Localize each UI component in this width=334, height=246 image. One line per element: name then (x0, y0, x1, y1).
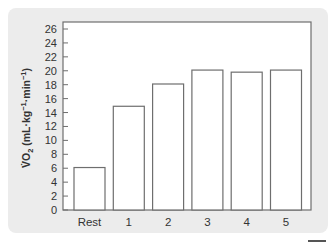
bar-5 (271, 70, 302, 210)
ylabel-sup1: −1 (19, 102, 28, 111)
ylabel-rest3: ) (20, 68, 32, 72)
x-tick-label: 1 (126, 216, 132, 228)
y-tick-label: 4 (51, 176, 57, 188)
y-tick-label: 8 (51, 148, 57, 160)
y-tick-label: 6 (51, 162, 57, 174)
ylabel-main: V̇O (20, 153, 32, 168)
ylabel-rest1: (mL·kg (20, 111, 32, 149)
y-tick-label: 0 (51, 204, 57, 216)
y-axis-label: V̇O2 (mL·kg−1·min−1) (19, 68, 35, 168)
y-tick-label: 16 (45, 93, 57, 105)
bar-chart: 02468101214161820222426 Rest12345 V̇O2 (… (0, 0, 334, 246)
x-axis-labels: Rest12345 (78, 216, 290, 228)
ylabel-rest2: ·min (20, 80, 32, 102)
bar-3 (192, 70, 223, 210)
y-tick-label: 20 (45, 65, 57, 77)
y-tick-label: 18 (45, 79, 57, 91)
y-tick-label: 26 (45, 23, 57, 35)
bar-2 (153, 84, 184, 210)
bar-1 (113, 106, 144, 210)
bar-rest (74, 168, 105, 210)
x-tick-label: 4 (243, 216, 250, 228)
x-tick-label: 2 (165, 216, 171, 228)
y-tick-label: 24 (45, 37, 57, 49)
y-tick-label: 14 (45, 107, 57, 119)
x-tick-label: Rest (78, 216, 102, 228)
y-tick-label: 22 (45, 51, 57, 63)
y-tick-label: 10 (45, 134, 57, 146)
x-tick-label: 5 (283, 216, 289, 228)
y-tick-label: 12 (45, 120, 57, 132)
page-corner-mark (308, 240, 326, 246)
x-tick-label: 3 (204, 216, 210, 228)
bar-4 (231, 72, 262, 210)
ylabel-sup2: −1 (19, 71, 28, 80)
y-tick-label: 2 (51, 190, 57, 202)
